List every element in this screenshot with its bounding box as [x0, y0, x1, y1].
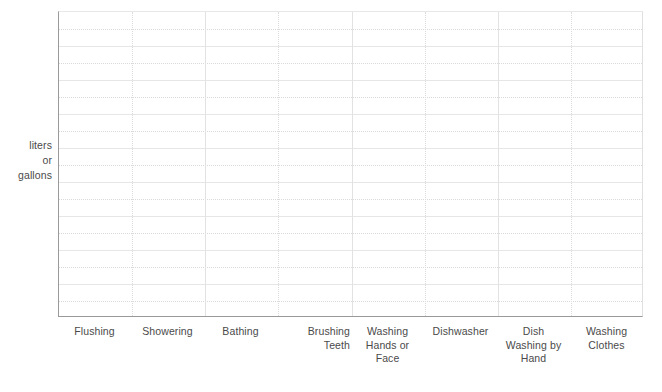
horizontal-gridline	[59, 46, 642, 47]
x-axis-tick-label-line: Bathing	[204, 325, 277, 339]
horizontal-gridline	[59, 131, 642, 132]
x-axis-tick-label-line: Clothes	[570, 339, 643, 353]
x-axis-tick-label: Dishwasher	[424, 325, 497, 339]
column-divider	[425, 12, 426, 316]
horizontal-gridline	[59, 165, 642, 166]
horizontal-gridline	[59, 199, 642, 200]
x-axis-tick-label-line: Face	[351, 352, 424, 366]
horizontal-gridline	[59, 216, 642, 217]
horizontal-gridline	[59, 80, 642, 81]
x-axis-tick-label-line: Brushing	[277, 325, 350, 339]
y-axis-label-line-3: gallons	[0, 168, 52, 183]
plot-area[interactable]	[58, 11, 643, 317]
x-axis-tick-label: BrushingTeeth	[277, 325, 350, 352]
column-divider	[498, 12, 499, 316]
column-divider	[278, 12, 279, 316]
x-axis-tick-label: WashingClothes	[570, 325, 643, 352]
x-axis-tick-label-line: Hands or	[351, 339, 424, 353]
horizontal-gridline	[59, 182, 642, 183]
x-axis-tick-label: Showering	[131, 325, 204, 339]
horizontal-gridline	[59, 301, 642, 302]
horizontal-gridline	[59, 97, 642, 98]
y-axis-label: liters or gallons	[0, 138, 52, 183]
x-axis-labels: FlushingShoweringBathingBrushingTeethWas…	[58, 325, 643, 385]
column-divider	[571, 12, 572, 316]
chart-container: liters or gallons FlushingShoweringBathi…	[0, 0, 662, 392]
column-divider	[205, 12, 206, 316]
x-axis-tick-label-line: Dishwasher	[424, 325, 497, 339]
x-axis-tick-label-line: Hand	[497, 352, 570, 366]
horizontal-gridline	[59, 114, 642, 115]
x-axis-tick-label-line: Washing by	[497, 339, 570, 353]
x-axis-tick-label-line: Showering	[131, 325, 204, 339]
y-axis-label-line-1: liters	[0, 138, 52, 153]
y-axis-label-line-2: or	[0, 153, 52, 168]
horizontal-gridline	[59, 284, 642, 285]
horizontal-gridline	[59, 148, 642, 149]
x-axis-tick-label-line: Dish	[497, 325, 570, 339]
horizontal-gridline	[59, 250, 642, 251]
horizontal-gridline	[59, 267, 642, 268]
x-axis-tick-label: Flushing	[58, 325, 131, 339]
x-axis-tick-label: WashingHands orFace	[351, 325, 424, 366]
horizontal-gridline	[59, 233, 642, 234]
horizontal-gridline	[59, 63, 642, 64]
column-divider	[352, 12, 353, 316]
x-axis-tick-label-line: Teeth	[277, 339, 350, 353]
x-axis-tick-label-line: Washing	[351, 325, 424, 339]
horizontal-gridline	[59, 29, 642, 30]
x-axis-tick-label: DishWashing byHand	[497, 325, 570, 366]
column-divider	[132, 12, 133, 316]
x-axis-tick-label-line: Washing	[570, 325, 643, 339]
x-axis-tick-label-line: Flushing	[58, 325, 131, 339]
x-axis-tick-label: Bathing	[204, 325, 277, 339]
